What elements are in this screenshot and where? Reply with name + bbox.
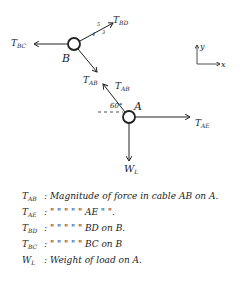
legend-row: TAE: " " " " " AE " ".: [22, 204, 242, 220]
legend-symbol: TBC: [22, 239, 44, 250]
tab-b-sub: AB: [89, 79, 98, 86]
legend-sym-sub: AB: [28, 195, 37, 202]
angle-label: 60°: [110, 103, 122, 110]
legend-text: : " " " " " AE " ".: [44, 207, 115, 217]
node-b-circle: [68, 38, 80, 50]
slope-run: 4: [92, 32, 95, 37]
legend-sym-sub: BD: [28, 227, 37, 234]
label-wl: WL: [124, 164, 138, 175]
y-axis-label: y: [200, 43, 205, 51]
label-tbc: TBC: [11, 39, 26, 49]
node-a-label: A: [134, 101, 142, 112]
tab-a-sub: AB: [121, 85, 130, 92]
tbc-sub: BC: [17, 42, 26, 49]
legend-sym-sub: BC: [28, 243, 37, 250]
x-axis-label: x: [221, 61, 226, 69]
slope-rise: 3: [102, 30, 105, 35]
node-b-label: B: [62, 53, 70, 64]
legend-symbol: TBD: [22, 223, 44, 234]
label-tbd: TBD: [113, 16, 128, 26]
legend-row: WL: Weight of load on A.: [22, 252, 242, 268]
force-tab-b-arrow: [78, 49, 97, 72]
legend-text: : " " " " " BC on B: [44, 239, 122, 249]
legend-text: : " " " " " BD on B.: [44, 223, 125, 233]
label-tab-a: TAB: [115, 82, 130, 92]
legend-sym-sub: L: [31, 259, 35, 266]
label-tab-b: TAB: [83, 76, 98, 86]
wl-sub: L: [134, 168, 138, 175]
label-tae: TAE: [195, 119, 210, 129]
slope-hyp: 5: [97, 22, 100, 27]
legend-row: TBC: " " " " " BC on B: [22, 236, 242, 252]
legend-symbol: TAE: [22, 207, 44, 218]
legend: TAB: Magnitude of force in cable AB on A…: [22, 188, 242, 268]
legend-text: : Weight of load on A.: [44, 255, 142, 265]
legend-row: TAB: Magnitude of force in cable AB on A…: [22, 188, 242, 204]
legend-symbol: WL: [22, 255, 44, 266]
wl-main: W: [124, 163, 134, 174]
legend-symbol: TAB: [22, 191, 44, 202]
legend-sym-main: W: [22, 255, 31, 265]
legend-text: : Magnitude of force in cable AB on A.: [44, 191, 218, 201]
tae-sub: AE: [201, 122, 210, 129]
legend-sym-sub: AE: [28, 211, 37, 218]
tbd-sub: BD: [119, 19, 128, 26]
legend-row: TBD: " " " " " BD on B.: [22, 220, 242, 236]
